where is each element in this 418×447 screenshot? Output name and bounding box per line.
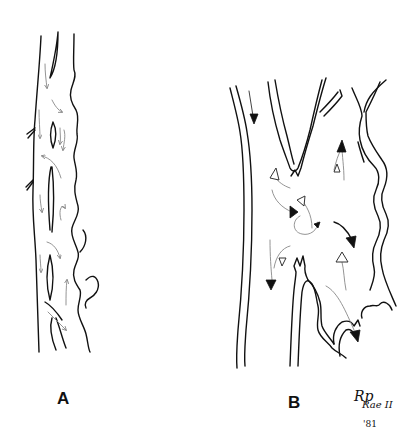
- signature-line-2: Rae II: [362, 399, 393, 410]
- panel-label-a: A: [57, 389, 69, 409]
- illustration-canvas: [0, 0, 418, 447]
- panel-label-b: B: [288, 393, 300, 413]
- signature-year: '81: [363, 419, 377, 429]
- panel-b-vessel: [230, 78, 396, 368]
- panel-a-vessel: [26, 32, 98, 352]
